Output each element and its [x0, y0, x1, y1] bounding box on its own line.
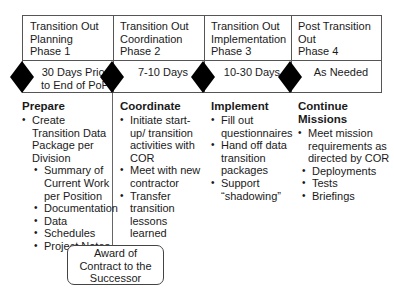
phase-1-title-line1: Transition Out	[30, 20, 113, 33]
list-item-text: Meet mission requirements as directed by…	[308, 127, 389, 164]
activity-column-coordinate: Coordinate Initiate start-up/ transition…	[120, 100, 202, 240]
list-item: Meet with new contractor	[120, 164, 202, 189]
phase-3-title-line2: Implementation	[211, 33, 291, 46]
phase-1-header: Transition Out Planning Phase 1	[23, 16, 113, 60]
milestone-diamond-icon	[191, 61, 215, 93]
sub-list-item: Tests	[302, 177, 390, 190]
activity-column-prepare: Prepare Create Transition Data Package p…	[22, 100, 112, 253]
milestone-diamond-icon	[10, 61, 34, 93]
sub-list-item: Deployments	[302, 165, 390, 178]
phase-4-header: Post Transition Out Phase 4	[291, 16, 381, 60]
phase-3-title-line1: Transition Out	[211, 20, 291, 33]
award-of-contract-box: Award of Contract to the Successor	[67, 245, 164, 285]
sub-list-item: Summary of Current Work per Position	[34, 164, 112, 202]
phase-3-number: Phase 3	[211, 45, 291, 58]
list-item: Hand off data transition packages	[211, 139, 293, 177]
activity-heading: Implement	[211, 100, 293, 113]
list-item: Fill out questionnaires	[211, 114, 293, 139]
list-item: Support “shadowing”	[211, 177, 293, 202]
list-item: Meet mission requirements as directed by…	[298, 127, 390, 203]
list-item: Transfer transition lessons learned	[120, 190, 202, 240]
activity-list: Initiate start-up/ transition activities…	[120, 114, 202, 240]
sub-list: Summary of Current Work per Position Doc…	[34, 164, 112, 252]
award-line2: Contract to the	[68, 260, 163, 273]
connector-line	[112, 93, 113, 245]
phase-4-title-line1: Post Transition	[298, 20, 381, 33]
phase-1-title-line2: Planning	[30, 33, 113, 46]
list-item-text: Create Transition Data Package per Divis…	[32, 114, 106, 164]
phase-2-title-line2: Coordination	[120, 33, 204, 46]
phase-header-row: Transition Out Planning Phase 1 Transiti…	[23, 16, 381, 61]
activity-column-implement: Implement Fill out questionnaires Hand o…	[211, 100, 293, 202]
activity-list: Create Transition Data Package per Divis…	[22, 114, 112, 253]
activity-heading: Continue Missions	[298, 100, 390, 126]
phase-4-title-line2: Out	[298, 33, 381, 46]
award-line1: Award of	[68, 247, 163, 260]
milestone-diamond-icon	[100, 61, 124, 93]
sub-list-item: Documentation	[34, 202, 112, 215]
phase-1-number: Phase 1	[30, 45, 113, 58]
list-item: Initiate start-up/ transition activities…	[120, 114, 202, 164]
sub-list-item: Data	[34, 215, 112, 228]
activity-list: Fill out questionnaires Hand off data tr…	[211, 114, 293, 202]
activity-column-continue-missions: Continue Missions Meet mission requireme…	[298, 100, 390, 203]
activity-heading: Prepare	[22, 100, 112, 113]
phase-3-header: Transition Out Implementation Phase 3	[204, 16, 291, 60]
sub-list: Deployments Tests Briefings	[302, 165, 390, 203]
sub-list-item: Schedules	[34, 227, 112, 240]
phase-2-title-line1: Transition Out	[120, 20, 204, 33]
sub-list-item: Briefings	[302, 190, 390, 203]
phase-4-duration-line1: As Needed	[301, 66, 381, 79]
phase-4-duration: As Needed	[301, 61, 381, 93]
phase-2-number: Phase 2	[120, 45, 204, 58]
activity-list: Meet mission requirements as directed by…	[298, 127, 390, 203]
phase-2-header: Transition Out Coordination Phase 2	[113, 16, 204, 60]
list-item: Create Transition Data Package per Divis…	[22, 114, 112, 253]
milestone-diamond-icon	[278, 61, 302, 93]
phase-4-number: Phase 4	[298, 45, 381, 58]
activity-heading: Coordinate	[120, 100, 202, 113]
award-line3: Successor	[68, 272, 163, 285]
